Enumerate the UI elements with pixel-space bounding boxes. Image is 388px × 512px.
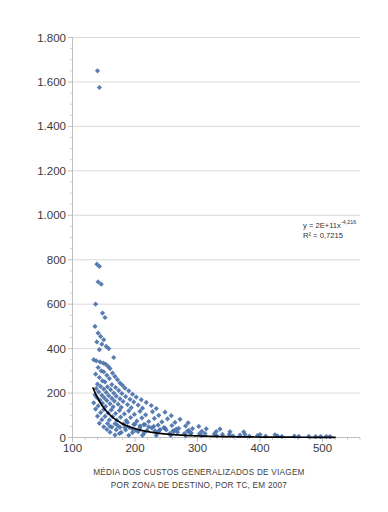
data-point xyxy=(111,355,116,360)
data-point xyxy=(102,414,107,419)
data-point xyxy=(132,412,137,417)
data-point xyxy=(152,416,157,421)
data-point xyxy=(97,347,102,352)
data-point xyxy=(109,382,114,387)
data-point xyxy=(101,337,106,342)
data-point xyxy=(130,392,135,397)
data-point xyxy=(165,416,170,421)
data-point xyxy=(97,85,102,90)
data-point xyxy=(156,422,161,427)
data-point xyxy=(128,415,133,420)
data-point xyxy=(97,375,102,380)
data-point xyxy=(149,403,154,408)
regression-equation: y = 2E+11x-4,216 xyxy=(303,217,356,231)
data-point xyxy=(112,432,117,437)
data-point xyxy=(144,400,149,405)
data-point xyxy=(196,424,201,429)
data-point xyxy=(306,434,311,439)
data-point xyxy=(125,402,130,407)
x-axis-title-line1: MÉDIA DOS CUSTOS GENERALIZADOS DE VIAGEM xyxy=(34,466,364,479)
data-point xyxy=(96,365,101,370)
data-point xyxy=(143,412,148,417)
scatter-chart-figure: DENSIDADE DE EMPREGOS EM 2007 0200400600… xyxy=(0,0,388,512)
data-point xyxy=(93,372,98,377)
data-point xyxy=(169,413,174,418)
data-point xyxy=(91,400,96,405)
data-point xyxy=(154,406,159,411)
data-point xyxy=(123,394,128,399)
data-point xyxy=(95,414,100,419)
data-point xyxy=(102,315,107,320)
data-point xyxy=(136,402,141,407)
data-point xyxy=(159,419,164,424)
data-point xyxy=(177,417,182,422)
x-axis-title-line2: POR ZONA DE DESTINO, POR TC, EM 2007 xyxy=(34,479,364,492)
data-point xyxy=(99,342,104,347)
data-point xyxy=(139,397,144,402)
data-point xyxy=(126,388,131,393)
regression-equation-exponent: -4,216 xyxy=(341,219,356,225)
scatter-series xyxy=(91,68,332,439)
data-point xyxy=(92,324,97,329)
r-squared-value: R² = 0,7215 xyxy=(303,231,356,242)
data-point xyxy=(134,394,139,399)
regression-equation-base: y = 2E+11x xyxy=(303,221,341,230)
data-point xyxy=(162,410,167,415)
regression-annotation: y = 2E+11x-4,216 R² = 0,7215 xyxy=(303,217,356,242)
data-point xyxy=(93,302,98,307)
data-point xyxy=(131,399,136,404)
data-point xyxy=(156,413,161,418)
data-point xyxy=(94,339,99,344)
data-point xyxy=(204,426,209,431)
data-point xyxy=(139,415,144,420)
data-point xyxy=(95,68,100,73)
data-point xyxy=(263,434,268,439)
data-point xyxy=(127,397,132,402)
data-point xyxy=(122,411,127,416)
data-point xyxy=(100,310,105,315)
data-point xyxy=(118,414,123,419)
data-point xyxy=(150,409,155,414)
data-point xyxy=(146,419,151,424)
x-axis-title: MÉDIA DOS CUSTOS GENERALIZADOS DE VIAGEM… xyxy=(34,466,364,492)
plot-area xyxy=(0,0,388,512)
